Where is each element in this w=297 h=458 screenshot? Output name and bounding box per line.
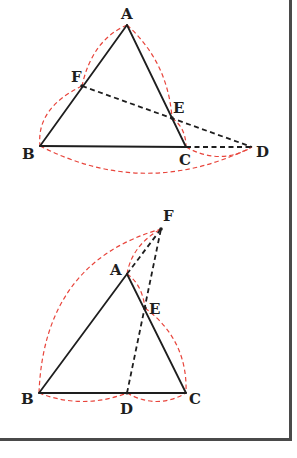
label-D-bottom: D <box>120 400 133 418</box>
point-F <box>159 227 163 231</box>
arc-B-D <box>40 146 252 173</box>
label-B-bottom: B <box>21 390 34 408</box>
label-A-bottom: A <box>109 261 122 279</box>
label-C-top: C <box>179 151 191 169</box>
arc-D-C <box>127 393 186 402</box>
edge-A-C <box>127 274 186 393</box>
point-E <box>143 306 147 310</box>
geometry-diagram: A B C D E F A B C D E F <box>0 0 297 458</box>
label-E-bottom: E <box>149 300 160 318</box>
edge-B-C <box>40 146 186 147</box>
arc-C-D <box>186 147 252 157</box>
figure-bottom: A B C D E F <box>21 207 201 418</box>
edge-A-C <box>127 25 186 147</box>
edge-A-B <box>39 274 127 393</box>
arc-B-D <box>39 393 127 402</box>
label-F-top: F <box>71 68 82 86</box>
label-C-bottom: C <box>189 390 201 408</box>
figure-top: A B C D E F <box>22 5 269 173</box>
label-E-top: E <box>173 99 184 117</box>
label-A-top: A <box>120 5 133 23</box>
label-B-top: B <box>22 145 35 163</box>
dash-A-F <box>127 229 161 274</box>
label-D-top: D <box>256 143 269 161</box>
label-F-bottom: F <box>163 207 174 225</box>
dash-F-D <box>82 86 252 147</box>
point-D <box>125 391 128 394</box>
